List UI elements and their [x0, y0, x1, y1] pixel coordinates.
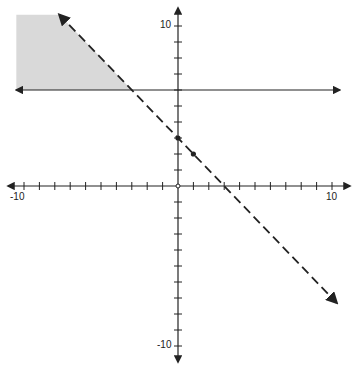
x-max-label: 10: [326, 191, 337, 202]
y-max-label: 10: [160, 19, 171, 30]
shaded-solution-region: [16, 15, 132, 90]
x-min-label: -10: [10, 191, 24, 202]
y-min-label: -10: [157, 339, 171, 350]
coordinate-plane: [0, 0, 359, 368]
